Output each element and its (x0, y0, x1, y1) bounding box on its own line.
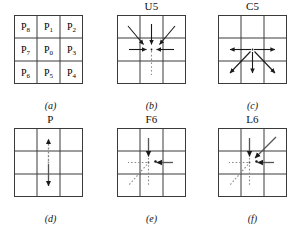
panel-e-grid (117, 128, 186, 197)
arrow-in-upright (160, 26, 176, 45)
panel-e: F6 (101, 113, 202, 226)
cell-p8-name: P (21, 21, 27, 32)
arrow-out-downright (255, 52, 276, 74)
pixel-label-grid: P8 P1 P2 P7 P0 P3 P6 P5 P4 (14, 15, 83, 84)
panel-f: L6 (202, 113, 303, 226)
cell-p2: P2 (60, 15, 83, 38)
panel-f-caption: (f) (202, 213, 303, 224)
arrow-out-downleft (230, 52, 251, 74)
cell-p3-name: P (67, 44, 73, 55)
cell-p5: P5 (37, 61, 60, 84)
centre-dot (249, 162, 251, 164)
panel-d-grid (14, 128, 83, 197)
cell-p3: P3 (60, 38, 83, 61)
panel-f-grid (218, 128, 287, 197)
figure-six-panel-neighbourhood-diagram: P8 P1 P2 P7 P0 P3 P6 P5 P4 (a) U5 (0, 0, 304, 226)
cell-p7-sub: 7 (27, 49, 31, 57)
neighbour-dot (255, 160, 258, 163)
panel-c-grid (218, 15, 287, 84)
centre-dot (148, 162, 150, 164)
panel-d: P (d) (0, 113, 101, 226)
dotted-out-downleft (129, 165, 147, 186)
cell-p1-name: P (44, 21, 50, 32)
cell-p0-sub: 0 (50, 49, 54, 57)
arrow-diagram-l6 (218, 128, 287, 197)
cell-p5-name: P (44, 67, 50, 78)
panel-c-title: C5 (202, 0, 303, 12)
panel-b-caption: (b) (101, 100, 202, 111)
arrow-diagram-u5 (117, 15, 186, 84)
cell-p4-name: P (67, 67, 73, 78)
centre-dot (48, 162, 50, 164)
panel-a: P8 P1 P2 P7 P0 P3 P6 P5 P4 (a) (0, 0, 101, 113)
panel-d-title: P (0, 113, 101, 125)
centre-dot (151, 49, 153, 51)
arrow-diagram-c5 (218, 15, 287, 84)
panel-c-caption: (c) (202, 100, 303, 111)
cell-p6-name: P (21, 67, 27, 78)
panel-b-title: U5 (101, 0, 202, 12)
panel-e-caption: (e) (101, 213, 202, 224)
panel-b: U5 (101, 0, 202, 113)
panel-c: C5 (202, 0, 303, 113)
cell-p4-sub: 4 (73, 72, 77, 80)
cell-p1: P1 (37, 15, 60, 38)
cell-p2-sub: 2 (73, 26, 77, 34)
cell-p0-name: P (44, 44, 50, 55)
panel-e-title: F6 (101, 113, 202, 125)
cell-p8-sub: 8 (27, 26, 31, 34)
arrow-diagram-f6 (117, 128, 186, 197)
cell-p7-name: P (21, 44, 27, 55)
arrow-in-upleft (128, 26, 144, 45)
panel-a-caption: (a) (0, 100, 101, 111)
cell-p6: P6 (14, 61, 37, 84)
arrow-diagram-p (14, 128, 83, 197)
cell-p4: P4 (60, 61, 83, 84)
panel-d-caption: (d) (0, 213, 101, 224)
panel-f-title: L6 (202, 113, 303, 125)
neighbour-dot (154, 160, 157, 163)
cell-p0: P0 (37, 38, 60, 61)
cell-p5-sub: 5 (50, 72, 54, 80)
cell-p1-sub: 1 (50, 26, 54, 34)
cell-p2-name: P (67, 21, 73, 32)
cell-p7: P7 (14, 38, 37, 61)
panel-b-grid (117, 15, 186, 84)
panel-a-grid: P8 P1 P2 P7 P0 P3 P6 P5 P4 (14, 15, 83, 84)
centre-dot (252, 49, 254, 51)
cell-p3-sub: 3 (73, 49, 77, 57)
cell-p8: P8 (14, 15, 37, 38)
cell-p6-sub: 6 (27, 72, 31, 80)
arrow-in-upright (255, 137, 276, 158)
dotted-out-downleft (230, 165, 248, 186)
